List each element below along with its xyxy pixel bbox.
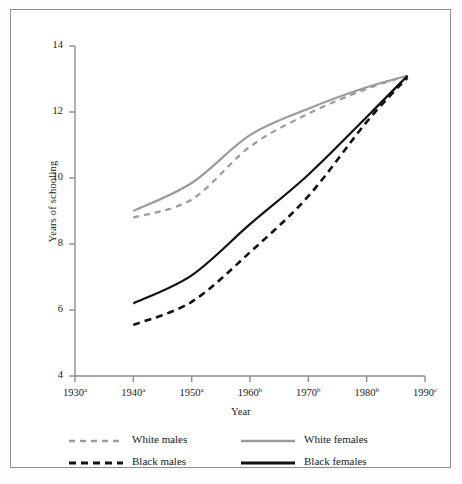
x-tick-year: 1990 [413,387,434,398]
series-line-white-males [133,76,407,218]
legend-swatch-icon [241,455,295,467]
legend-row: White malesWhite females [69,429,409,449]
x-tick-footnote-marker: a [201,386,204,394]
y-axis-title: Years of schooling [47,142,58,262]
x-tick-year: 1950 [180,387,201,398]
legend-swatch-icon [241,433,295,445]
x-tick-label: 1960b [224,387,276,398]
x-tick-label: 1990c [399,387,451,398]
legend-item-white-males[interactable]: White males [69,429,241,449]
x-tick-year: 1930 [63,387,84,398]
x-tick-label: 1970b [282,387,334,398]
y-tick-label: 14 [39,39,63,50]
x-tick-footnote-marker: a [142,386,145,394]
x-tick-label: 1980b [341,387,393,398]
x-tick-footnote-marker: c [434,386,437,394]
y-tick-label: 4 [39,369,63,380]
legend-row: Black malesBlack females [69,451,409,471]
x-tick-year: 1940 [121,387,142,398]
data-series-group [133,76,407,325]
series-line-black-males [133,77,407,325]
x-tick-year: 1960 [238,387,259,398]
x-axis-title: Year [211,406,271,417]
x-tick-label: 1940a [107,387,159,398]
legend-label: White females [295,433,368,445]
legend-item-black-males[interactable]: Black males [69,451,241,471]
chart-legend: White malesWhite femalesBlack malesBlack… [69,429,409,473]
chart-plot-area [11,10,450,467]
x-tick-footnote-marker: b [317,386,321,394]
legend-swatch-icon [69,455,123,467]
x-tick-year: 1970 [296,387,317,398]
legend-label: Black males [123,455,186,467]
x-tick-label: 1930a [49,387,101,398]
y-tick-label: 12 [39,105,63,116]
legend-swatch-icon [69,433,123,445]
axis-ticks [69,46,425,382]
axes-lines [75,46,425,376]
series-line-black-females [133,76,407,304]
x-tick-footnote-marker: a [84,386,87,394]
y-tick-label: 6 [39,303,63,314]
figure-border: 468101214 1930a1940a1950a1960b1970b1980b… [10,9,451,468]
series-line-white-females [133,76,407,211]
x-tick-label: 1950a [166,387,218,398]
legend-item-white-females[interactable]: White females [241,429,409,449]
figure-canvas: 468101214 1930a1940a1950a1960b1970b1980b… [0,0,462,484]
legend-label: Black females [295,455,367,467]
x-tick-year: 1980 [354,387,375,398]
legend-label: White males [123,433,187,445]
legend-item-black-females[interactable]: Black females [241,451,409,471]
x-tick-footnote-marker: b [259,386,263,394]
x-tick-footnote-marker: b [375,386,379,394]
